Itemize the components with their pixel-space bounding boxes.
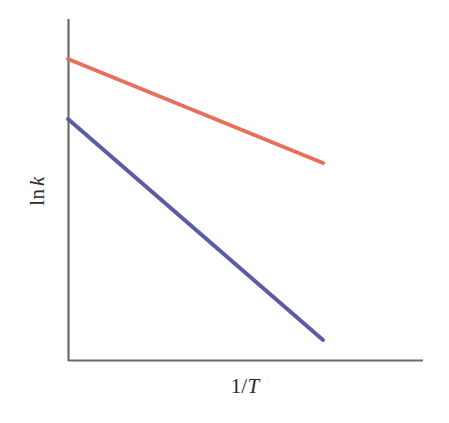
series-group bbox=[68, 59, 323, 340]
series-line-uncatalyzed bbox=[68, 119, 323, 340]
x-axis-label: 1/T bbox=[208, 374, 282, 399]
series-line-catalyzed bbox=[68, 59, 323, 163]
x-axis-label-variable: T bbox=[247, 374, 259, 398]
y-axis-label: lnk bbox=[6, 174, 68, 208]
plot-canvas bbox=[0, 0, 449, 423]
y-axis-label-variable: k bbox=[25, 176, 50, 186]
arrhenius-plot-figure: lnk 1/T bbox=[0, 0, 449, 423]
x-axis-label-numerator: 1/ bbox=[231, 374, 248, 398]
axes-group bbox=[68, 19, 423, 361]
y-axis-label-function: ln bbox=[25, 189, 50, 206]
